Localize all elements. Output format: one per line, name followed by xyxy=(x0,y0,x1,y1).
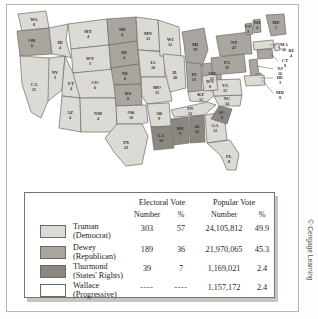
state-votes-sc: 8 xyxy=(221,115,223,120)
candidate-name: Wallace xyxy=(73,281,99,290)
state-votes-ga: 12 xyxy=(213,128,217,133)
leader-line-md xyxy=(262,80,273,93)
state-votes-vt: 3 xyxy=(247,29,249,34)
cell-ev-number: 39 xyxy=(125,264,169,273)
legend-swatch-thurmond xyxy=(40,265,66,278)
legend-row: Wallace (Progressive) ---- ---- 1,157,17… xyxy=(25,282,274,303)
state-votes-fl: 8 xyxy=(228,159,230,164)
copyright-credit: © Cengage Learning xyxy=(303,196,317,304)
election-map-figure: WA8OR6CA25NV3ID4MT4WY3UT4CO6AZ4NM4ND4SD4… xyxy=(0,0,318,319)
state-votes-co: 6 xyxy=(94,85,96,90)
cell-pv-number: 24,105,812 xyxy=(197,224,251,233)
state-votes-ia: 10 xyxy=(151,65,155,70)
subheader-ev-pct: % xyxy=(171,210,191,219)
state-md xyxy=(244,75,265,86)
subheader-pv-number: Number xyxy=(197,210,251,219)
header-popular-vote: Popular Vote xyxy=(197,198,271,207)
state-votes-or: 6 xyxy=(31,43,33,48)
state-votes-ky: 11 xyxy=(199,97,203,102)
state-votes-va: 11 xyxy=(223,88,227,93)
legend-swatch-wallace xyxy=(40,284,66,297)
state-ri xyxy=(274,43,280,51)
state-votes-la: 10 xyxy=(159,138,163,143)
legend-row: Truman (Democrat) 303 57 24,105,812 49.9 xyxy=(25,223,274,244)
cell-pv-pct: 2.4 xyxy=(253,264,271,273)
candidate-name: Truman xyxy=(73,222,99,231)
state-votes-ok: 10 xyxy=(129,115,133,120)
cell-pv-number: 1,169,021 xyxy=(197,264,251,273)
us-map-svg: WA8OR6CA25NV3ID4MT4WY3UT4CO6AZ4NM4ND4SD4… xyxy=(8,6,297,178)
state-votes-tx: 23 xyxy=(124,145,128,150)
state-votes-me: 5 xyxy=(275,25,277,30)
cell-ev-number: 189 xyxy=(125,245,169,254)
state-votes-ri: 4 xyxy=(290,53,292,58)
cell-ev-pct: 57 xyxy=(171,224,191,233)
state-votes-az: 4 xyxy=(69,115,71,120)
state-votes-ma: 16 xyxy=(282,47,286,52)
cell-ev-pct: 7 xyxy=(171,264,191,273)
state-votes-ny: 47 xyxy=(232,45,236,50)
state-votes-nm: 4 xyxy=(97,116,99,121)
state-votes-nc: 14 xyxy=(225,101,229,106)
state-votes-wi: 12 xyxy=(168,42,172,47)
state-votes-de: 3 xyxy=(279,80,281,85)
cell-ev-number: ---- xyxy=(125,283,169,292)
state-votes-ne: 6 xyxy=(124,76,126,81)
cell-pv-number: 21,970,065 xyxy=(197,245,251,254)
state-votes-nv: 3 xyxy=(54,75,56,80)
legend-row: Thurmond (States' Rights) 39 7 1,169,021… xyxy=(25,263,274,284)
subheader-ev-number: Number xyxy=(125,210,169,219)
state-votes-wy: 3 xyxy=(89,61,91,66)
state-votes-ct: 8 xyxy=(284,63,286,68)
legend-swatch-dewey xyxy=(40,246,66,259)
state-votes-sd: 4 xyxy=(123,55,125,60)
leader-line-nj xyxy=(257,66,273,69)
cell-ev-number: 303 xyxy=(125,224,169,233)
state-votes-mi: 19 xyxy=(193,47,197,52)
legend-row: Dewey (Republican) 189 36 21,970,065 45.… xyxy=(25,244,274,265)
state-ct xyxy=(257,49,273,59)
state-votes-id: 4 xyxy=(59,45,61,50)
cell-pv-pct: 45.3 xyxy=(253,245,271,254)
cell-pv-number: 1,157,172 xyxy=(197,283,251,292)
legend-panel: Electoral Vote Popular Vote Number % Num… xyxy=(24,192,275,298)
state-votes-ar: 9 xyxy=(158,116,160,121)
state-votes-nd: 4 xyxy=(121,32,123,37)
state-votes-al: 11 xyxy=(195,129,199,134)
cell-pv-pct: 2.4 xyxy=(253,283,271,292)
cell-ev-pct: 36 xyxy=(171,245,191,254)
state-votes-nh: 4 xyxy=(256,25,258,30)
state-votes-mo: 15 xyxy=(155,90,159,95)
state-votes-md: 8 xyxy=(279,95,281,100)
state-votes-wa: 8 xyxy=(33,22,35,27)
state-votes-ut: 4 xyxy=(70,86,72,91)
state-votes-tn: 12 xyxy=(188,111,192,116)
state-votes-ca: 25 xyxy=(32,87,36,92)
candidate-name: Dewey xyxy=(73,243,96,252)
us-electoral-map: WA8OR6CA25NV3ID4MT4WY3UT4CO6AZ4NM4ND4SD4… xyxy=(8,6,297,178)
legend-swatch-truman xyxy=(40,225,66,238)
subheader-pv-pct: % xyxy=(253,210,271,219)
credit-text: © Cengage Learning xyxy=(307,220,314,281)
state-votes-mt: 4 xyxy=(87,34,89,39)
candidate-name: Thurmond xyxy=(73,262,108,271)
header-electoral-vote: Electoral Vote xyxy=(131,198,193,207)
state-votes-pa: 35 xyxy=(225,65,229,70)
state-fl xyxy=(207,140,239,170)
state-votes-mn: 11 xyxy=(146,36,150,41)
state-votes-ks: 8 xyxy=(127,96,129,101)
state-votes-in: 13 xyxy=(192,77,196,82)
state-votes-ms: 9 xyxy=(179,131,181,136)
state-votes-il: 28 xyxy=(173,75,177,80)
cell-ev-pct: ---- xyxy=(171,283,191,292)
cell-pv-pct: 49.9 xyxy=(253,224,271,233)
state-votes-wv: 8 xyxy=(209,84,211,89)
